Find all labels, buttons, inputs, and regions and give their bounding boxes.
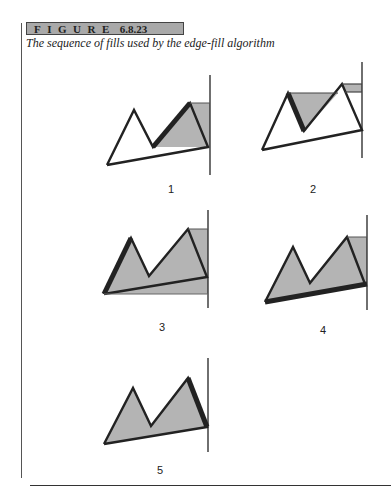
panel-label-2: 2 [310,183,316,195]
panel-label-5: 5 [157,464,163,476]
edge-fill-diagram: 1 2 3 4 5 [0,0,391,500]
bottom-rule [30,485,391,486]
panel-1: 1 [107,75,210,195]
panel-label-4: 4 [320,324,326,336]
panel-label-3: 3 [159,321,165,333]
panel-2: 2 [262,62,362,195]
panel-label-1: 1 [168,183,174,195]
panel-4: 4 [265,215,367,336]
panel-5: 5 [104,358,208,476]
panel-3: 3 [104,210,208,333]
